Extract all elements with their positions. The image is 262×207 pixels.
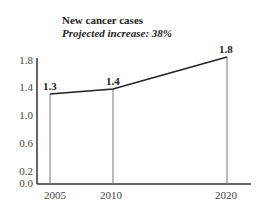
y-tick-label: 1.4: [19, 81, 33, 93]
x-tick-label: 2020: [215, 189, 238, 201]
y-tick-label: 0.2: [19, 165, 33, 177]
data-label-2010: 1.4: [106, 75, 120, 87]
data-label-2020: 1.8: [219, 43, 233, 55]
drop-lines: [50, 57, 227, 184]
y-tick-label: 1.0: [19, 109, 33, 121]
data-line: [50, 57, 227, 94]
y-tick-label: 0.0: [19, 177, 33, 189]
x-tick-label: 2010: [100, 189, 123, 201]
x-tick-labels: 2005 2010 2020: [44, 189, 238, 201]
y-tick-label: 0.6: [19, 137, 33, 149]
line-chart: 0.0 0.2 0.6 1.0 1.4 1.8 1.3 1.4 1.8 2005…: [0, 0, 262, 207]
data-label-2005: 1.3: [43, 80, 57, 92]
y-tick-labels: 0.0 0.2 0.6 1.0 1.4 1.8: [19, 54, 33, 189]
y-tick-label: 1.8: [19, 54, 33, 66]
x-tick-label: 2005: [44, 189, 67, 201]
